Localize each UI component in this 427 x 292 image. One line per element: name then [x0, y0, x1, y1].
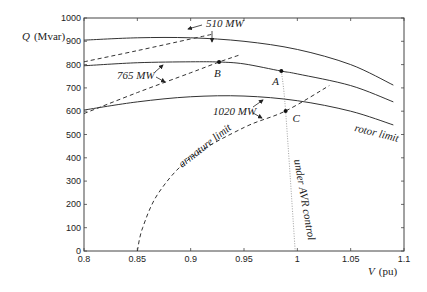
x-axis-ticks: 0.80.850.90.9511.051.1 — [78, 18, 411, 264]
label-510mw: 510 MW — [206, 17, 244, 29]
arrow-765-down — [156, 77, 165, 82]
y-axis-label: Q(Mvar) — [22, 30, 65, 43]
point-a — [279, 69, 283, 73]
x-tick-label: 0.95 — [235, 254, 253, 264]
y-axis-ticks: 01002003004005006007008009001000 — [61, 13, 404, 256]
y-tick-label: 600 — [66, 106, 81, 116]
arrow-1020-up — [253, 100, 263, 107]
label-armature-limit: armature limit — [176, 120, 234, 169]
point-label-b: B — [214, 67, 221, 79]
series-armature-limit-510-mw — [84, 34, 212, 61]
y-tick-label: 300 — [66, 176, 81, 186]
y-tick-label: 100 — [66, 223, 81, 233]
arrow-510-left — [188, 25, 202, 29]
label-rotor-limit: rotor limit — [354, 121, 402, 144]
series-group — [84, 34, 393, 251]
point-label-a: A — [271, 75, 279, 87]
y-tick-label: 200 — [66, 199, 81, 209]
y-tick-label: 1000 — [61, 13, 81, 23]
x-tick-label: 1.1 — [398, 254, 411, 264]
y-tick-label: 700 — [66, 83, 81, 93]
label-1020mw: 1020 MW — [213, 105, 257, 117]
x-tick-label: 1.05 — [342, 254, 360, 264]
point-label-c: C — [293, 112, 301, 124]
x-tick-label: 0.85 — [129, 254, 147, 264]
x-tick-label: 1 — [295, 254, 300, 264]
label-avr-control: under AVR control — [292, 158, 318, 241]
y-tick-label: 800 — [66, 60, 81, 70]
arrow-765-up — [155, 65, 163, 72]
point-b — [217, 60, 221, 64]
x-axis-label: V(pu) — [368, 265, 397, 278]
y-tick-label: 0 — [76, 246, 81, 256]
q-v-chart: 0.80.850.90.9511.051.1 01002003004005006… — [0, 0, 427, 292]
y-tick-label: 900 — [66, 36, 81, 46]
y-tick-label: 500 — [66, 130, 81, 140]
point-c — [284, 109, 288, 113]
label-765mw: 765 MW — [117, 69, 155, 81]
x-tick-label: 0.9 — [184, 254, 197, 264]
y-tick-label: 400 — [66, 153, 81, 163]
plot-frame — [84, 18, 404, 251]
